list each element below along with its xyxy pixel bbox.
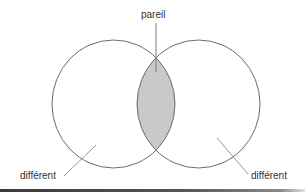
leader-line-right xyxy=(217,138,248,174)
bottom-rule xyxy=(0,189,305,192)
venn-svg xyxy=(0,0,305,192)
leader-line-left xyxy=(64,145,96,176)
venn-diagram: pareil différent différent xyxy=(0,0,305,192)
left-set-label: différent xyxy=(20,170,56,182)
intersection-region xyxy=(137,40,260,168)
right-set-label: différent xyxy=(251,170,287,182)
intersection-label: pareil xyxy=(141,9,165,21)
